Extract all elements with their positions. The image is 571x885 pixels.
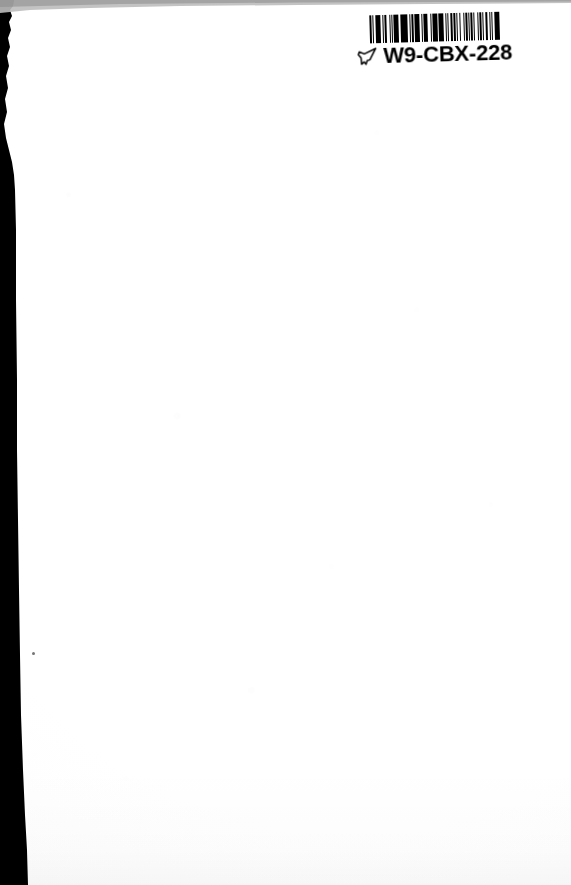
barcode-label: W9-CBX-228 xyxy=(351,6,559,74)
dust-speck xyxy=(32,652,35,655)
barcode-label-row: W9-CBX-228 xyxy=(354,38,557,70)
pointing-hand-icon xyxy=(356,46,379,67)
paper-surface xyxy=(0,0,571,885)
barcode-code-text: W9-CBX-228 xyxy=(383,41,512,67)
scanned-page: W9-CBX-228 xyxy=(0,0,571,885)
